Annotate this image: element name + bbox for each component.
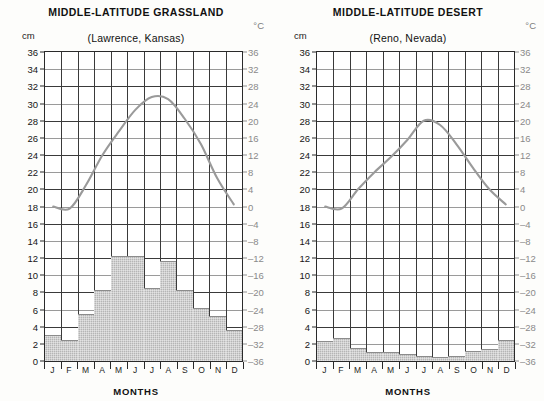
y-axis-tick-label-temp: 12 (248, 150, 274, 161)
y-axis-tickmark-temp (243, 86, 247, 87)
y-axis-tickmark-precip (312, 103, 316, 104)
y-axis-tick-label-precip: 6 (12, 304, 38, 315)
y-axis-tickmark-temp (515, 292, 519, 293)
y-axis-tick-label-precip: 22 (284, 167, 310, 178)
y-axis-tick-label-temp: 16 (520, 132, 544, 143)
y-axis-tick-label-temp: –32 (248, 338, 274, 349)
y-axis-tickmark-temp (515, 223, 519, 224)
y-axis-tickmark-precip (40, 155, 44, 156)
month-label: M (110, 365, 127, 375)
y-axis-tickmark-precip (40, 206, 44, 207)
y-axis-tickmark-temp (515, 52, 519, 53)
month-label: D (498, 365, 515, 375)
y-axis-tick-label-precip: 6 (284, 304, 310, 315)
x-axis-tickmark (382, 362, 383, 369)
y-axis-tick-label-precip: 28 (284, 115, 310, 126)
y-axis-tick-label-temp: 4 (520, 184, 544, 195)
panel-subtitle: (Lawrence, Kansas) (0, 32, 272, 44)
y-axis-tick-label-precip: 28 (12, 115, 38, 126)
month-label: A (432, 365, 449, 375)
y-axis-tick-label-temp: –16 (248, 270, 274, 281)
y-axis-tick-label-precip: 24 (12, 150, 38, 161)
month-label: M (77, 365, 94, 375)
x-axis-title: MONTHS (0, 386, 272, 397)
panel-subtitle: (Reno, Nevada) (272, 32, 544, 44)
y-axis-tickmark-temp (243, 137, 247, 138)
x-axis-tickmark (210, 362, 211, 369)
y-axis-tickmark-temp (243, 343, 247, 344)
x-axis-tickmark (77, 362, 78, 369)
x-axis-tickmark (127, 362, 128, 369)
x-axis-tickmark (465, 362, 466, 369)
y-axis-tickmark-precip (40, 137, 44, 138)
month-label: J (127, 365, 144, 375)
y-axis-tickmark-precip (312, 240, 316, 241)
y-axis-tick-label-precip: 18 (284, 201, 310, 212)
x-axis-tickmark (515, 362, 516, 369)
y-axis-tick-label-temp: –36 (248, 356, 274, 367)
y-axis-tick-label-precip: 2 (284, 338, 310, 349)
y-axis-tick-label-temp: 16 (248, 132, 274, 143)
y-axis-tickmark-temp (243, 155, 247, 156)
y-axis-tickmark-precip (312, 52, 316, 53)
y-axis-tickmark-temp (515, 120, 519, 121)
x-axis-tickmark (144, 362, 145, 369)
y-axis-tickmark-temp (515, 155, 519, 156)
y-axis-tickmark-temp (243, 240, 247, 241)
y-axis-tickmark-temp (515, 189, 519, 190)
y-axis-tick-label-temp: –24 (248, 304, 274, 315)
y-axis-tick-label-temp: 32 (248, 64, 274, 75)
panel-desert: MIDDLE-LATITUDE DESERT (Reno, Nevada) cm… (272, 0, 544, 401)
y-axis-tickmark-temp (515, 206, 519, 207)
month-label: M (382, 365, 399, 375)
y-axis-tickmark-precip (40, 309, 44, 310)
y-axis-tickmark-temp (515, 326, 519, 327)
month-label: O (465, 365, 482, 375)
y-axis-tickmark-precip (40, 52, 44, 53)
y-axis-tick-label-precip: 12 (12, 253, 38, 264)
y-axis-tickmark-precip (40, 69, 44, 70)
y-axis-tickmark-precip (312, 326, 316, 327)
y-axis-tickmark-temp (243, 69, 247, 70)
month-label: N (482, 365, 499, 375)
y-axis-tickmark-temp (243, 223, 247, 224)
y-axis-tickmark-temp (243, 292, 247, 293)
x-axis-tickmark (316, 362, 317, 369)
y-axis-tickmark-temp (515, 69, 519, 70)
y-axis-tickmark-precip (312, 189, 316, 190)
y-axis-tick-label-temp: –20 (248, 287, 274, 298)
month-label: J (415, 365, 432, 375)
y-axis-tick-label-temp: 28 (248, 81, 274, 92)
month-label: O (193, 365, 210, 375)
month-label: F (61, 365, 78, 375)
y-axis-tick-label-precip: 8 (12, 287, 38, 298)
panel-title: MIDDLE-LATITUDE DESERT (272, 6, 544, 18)
y-axis-tickmark-precip (40, 292, 44, 293)
x-axis-tickmark (177, 362, 178, 369)
y-axis-tick-label-precip: 8 (284, 287, 310, 298)
y-axis-tick-label-precip: 24 (284, 150, 310, 161)
y-axis-tickmark-precip (40, 258, 44, 259)
left-axis-unit: cm (22, 30, 35, 41)
y-axis-tick-label-precip: 10 (284, 270, 310, 281)
y-axis-tick-label-precip: 18 (12, 201, 38, 212)
y-axis-tickmark-precip (40, 172, 44, 173)
y-axis-tick-label-temp: 32 (520, 64, 544, 75)
x-axis-tickmark (94, 362, 95, 369)
y-axis-tickmark-precip (312, 137, 316, 138)
y-axis-tickmark-precip (312, 343, 316, 344)
x-axis-tickmark (243, 362, 244, 369)
month-label: A (366, 365, 383, 375)
y-axis-tickmark-precip (312, 292, 316, 293)
y-axis-tick-label-temp: –8 (248, 235, 274, 246)
y-axis-tickmark-temp (243, 120, 247, 121)
month-label: J (316, 365, 333, 375)
y-axis-tickmark-temp (515, 86, 519, 87)
y-axis-tickmark-precip (40, 120, 44, 121)
y-axis-tick-label-temp: –8 (520, 235, 544, 246)
y-axis-tickmark-precip (40, 103, 44, 104)
y-axis-tick-label-temp: –12 (248, 253, 274, 264)
x-axis-tickmark (193, 362, 194, 369)
y-axis-tickmark-temp (243, 52, 247, 53)
y-axis-tick-label-temp: –28 (520, 321, 544, 332)
